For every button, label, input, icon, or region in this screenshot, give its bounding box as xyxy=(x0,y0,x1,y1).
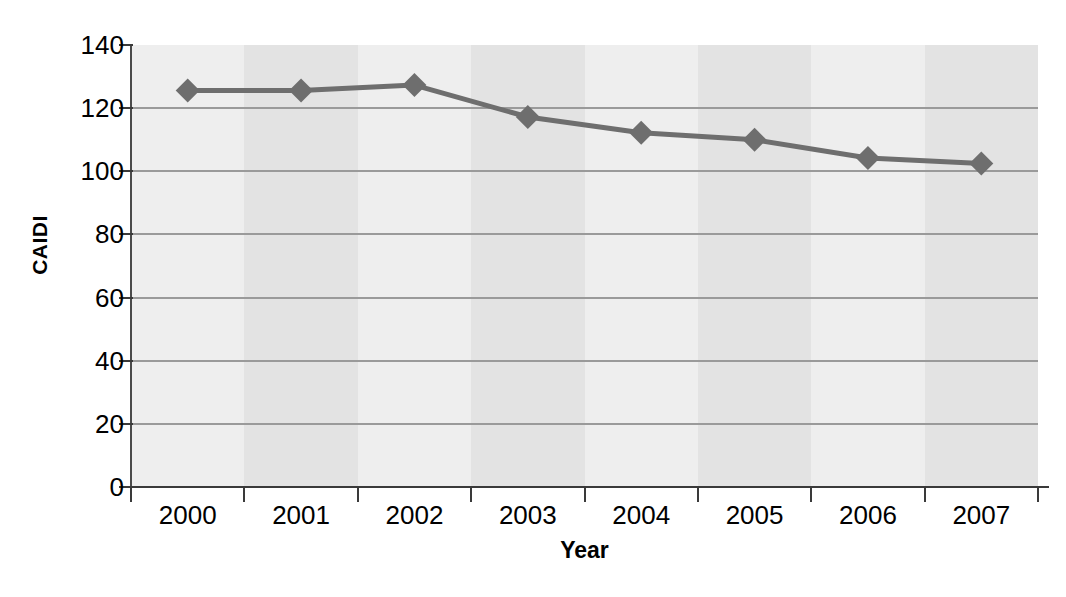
x-tick-label: 2005 xyxy=(726,500,784,531)
x-tick-label: 2002 xyxy=(386,500,444,531)
x-tick-label: 2000 xyxy=(159,500,217,531)
y-tick-labels: 020406080100120140 xyxy=(56,45,124,487)
data-point-marker xyxy=(289,78,313,102)
y-tick-label: 120 xyxy=(81,95,124,121)
series-line xyxy=(188,85,982,163)
data-point-marker xyxy=(629,121,653,145)
y-tick-label: 60 xyxy=(95,285,124,311)
x-tick-mark xyxy=(1037,487,1039,502)
data-point-marker xyxy=(402,73,426,97)
data-point-marker xyxy=(516,105,540,129)
x-tick-mark xyxy=(243,487,245,502)
x-tick-mark xyxy=(697,487,699,502)
x-tick-label: 2007 xyxy=(952,500,1010,531)
x-tick-mark xyxy=(810,487,812,502)
data-point-marker xyxy=(176,78,200,102)
x-tick-label: 2003 xyxy=(499,500,557,531)
data-series-line xyxy=(131,45,1038,487)
x-tick-mark xyxy=(584,487,586,502)
x-axis-title: Year xyxy=(131,537,1038,564)
y-tick-label: 140 xyxy=(81,32,124,58)
x-tick-label: 2006 xyxy=(839,500,897,531)
y-tick-label: 80 xyxy=(95,221,124,247)
data-point-marker xyxy=(856,146,880,170)
data-point-marker xyxy=(969,151,993,175)
data-point-marker xyxy=(743,128,767,152)
x-tick-mark xyxy=(357,487,359,502)
x-tick-mark xyxy=(924,487,926,502)
y-tick-label: 40 xyxy=(95,348,124,374)
y-axis-title-label: CAIDI xyxy=(28,215,52,275)
chart-container: CAIDI 020406080100120140 200020012002200… xyxy=(0,0,1066,597)
y-tick-label: 0 xyxy=(110,474,124,500)
x-tick-mark xyxy=(470,487,472,502)
x-tick-mark xyxy=(130,487,132,502)
x-tick-label: 2001 xyxy=(272,500,330,531)
x-tick-label: 2004 xyxy=(612,500,670,531)
y-tick-label: 20 xyxy=(95,411,124,437)
y-tick-label: 100 xyxy=(81,158,124,184)
